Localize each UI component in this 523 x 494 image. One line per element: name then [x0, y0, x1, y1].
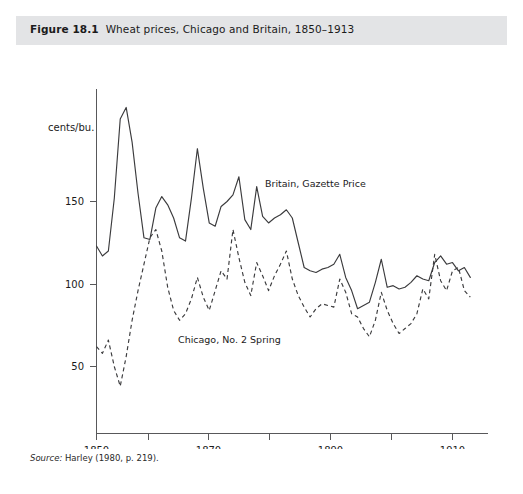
series-label-chicago: Chicago, No. 2 Spring — [178, 334, 281, 345]
figure-header-band: Figure 18.1 Wheat prices, Chicago and Br… — [16, 16, 507, 45]
figure-panel: Figure 18.1 Wheat prices, Chicago and Br… — [16, 16, 507, 478]
source-citation: Harley (1980, p. 219). — [62, 453, 159, 463]
source-label: Source: — [30, 453, 62, 463]
figure-footer: Source: Harley (1980, p. 219). — [16, 449, 507, 478]
y-axis-unit-label: cents/bu. — [48, 122, 94, 133]
y-tick-label-50: 50 — [71, 361, 84, 372]
y-tick-label-150: 150 — [65, 196, 84, 207]
figure-caption: Wheat prices, Chicago and Britain, 1850–… — [106, 23, 355, 35]
source-note: Source: Harley (1980, p. 219). — [30, 453, 159, 463]
figure-title: Figure 18.1 Wheat prices, Chicago and Br… — [30, 23, 354, 35]
series-label-britain: Britain, Gazette Price — [265, 178, 366, 189]
y-tick-label-100: 100 — [65, 279, 84, 290]
series-line-chicago — [97, 230, 471, 387]
figure-number: Figure 18.1 — [30, 23, 99, 35]
x-axis-ticks — [97, 434, 453, 441]
wheat-price-line-chart: 150 100 50 1850 1870 1890 1910 cents/bu.… — [16, 45, 507, 449]
series-line-britain — [97, 107, 471, 308]
y-axis-tick-labels: 150 100 50 — [65, 196, 84, 372]
y-axis-ticks — [90, 202, 97, 367]
chart-axes — [97, 89, 489, 434]
figure-body: 150 100 50 1850 1870 1890 1910 cents/bu.… — [16, 45, 507, 449]
